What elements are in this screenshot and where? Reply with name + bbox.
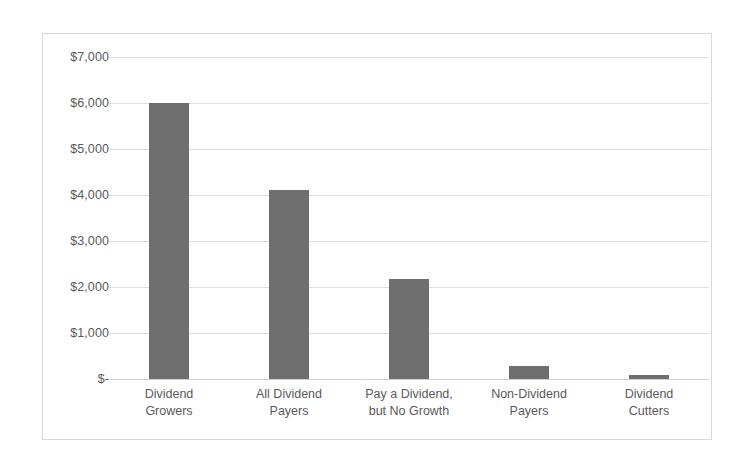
bar[interactable] bbox=[269, 190, 309, 379]
bar-series bbox=[109, 34, 709, 439]
y-axis-tick-label: $4,000 bbox=[45, 188, 109, 202]
bar-slot bbox=[589, 34, 709, 439]
y-axis-tick-label: $3,000 bbox=[45, 234, 109, 248]
bar-slot bbox=[229, 34, 349, 439]
y-axis-tick-label: $2,000 bbox=[45, 280, 109, 294]
chart-frame: $7,000$6,000$5,000$4,000$3,000$2,000$1,0… bbox=[42, 33, 712, 440]
y-axis-tick-label: $6,000 bbox=[45, 96, 109, 110]
bar-slot bbox=[109, 34, 229, 439]
y-axis-tick-label: $- bbox=[45, 372, 109, 386]
bar[interactable] bbox=[509, 366, 549, 379]
bar-slot bbox=[349, 34, 469, 439]
x-axis-tick-label: Pay a Dividend, but No Growth bbox=[349, 386, 469, 420]
x-axis-tick-label: All Dividend Payers bbox=[229, 386, 349, 420]
y-axis-tick-label: $7,000 bbox=[45, 50, 109, 64]
x-axis-labels: Dividend GrowersAll Dividend PayersPay a… bbox=[109, 386, 709, 438]
y-axis-tick-label: $5,000 bbox=[45, 142, 109, 156]
x-axis-tick-label: Dividend Growers bbox=[109, 386, 229, 420]
x-axis-tick-label: Non-Dividend Payers bbox=[469, 386, 589, 420]
bar[interactable] bbox=[149, 103, 189, 379]
plot-area bbox=[109, 34, 709, 439]
bar-slot bbox=[469, 34, 589, 439]
bar[interactable] bbox=[629, 375, 669, 379]
bar[interactable] bbox=[389, 279, 429, 379]
x-axis-tick-label: Dividend Cutters bbox=[589, 386, 709, 420]
y-axis-labels: $7,000$6,000$5,000$4,000$3,000$2,000$1,0… bbox=[43, 34, 109, 439]
y-axis-tick-label: $1,000 bbox=[45, 326, 109, 340]
